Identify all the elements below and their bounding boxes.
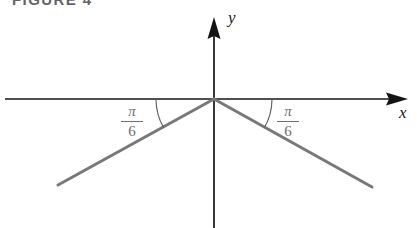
right-angle-label: π 6 xyxy=(275,104,301,139)
x-axis-label: x xyxy=(399,103,407,123)
figure-container: FIGURE 4 y x π 6 π 6 xyxy=(0,0,417,228)
right-angle-numerator: π xyxy=(275,104,301,120)
left-angle-arc xyxy=(156,99,164,128)
right-angle-denominator: 6 xyxy=(275,124,301,139)
left-angle-fraction-bar xyxy=(121,121,143,122)
coordinate-plane-graphic xyxy=(0,0,417,228)
left-angle-denominator: 6 xyxy=(119,124,145,139)
left-angle-label: π 6 xyxy=(119,104,145,139)
y-axis-arrowhead xyxy=(208,17,221,39)
right-angle-arc xyxy=(265,99,273,128)
y-axis-label: y xyxy=(228,8,236,28)
right-angle-fraction-bar xyxy=(277,121,299,122)
left-angle-numerator: π xyxy=(119,104,145,120)
